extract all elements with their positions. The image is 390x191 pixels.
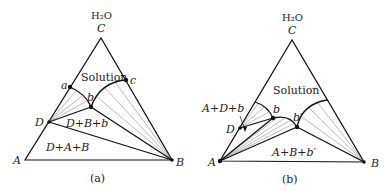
point-D [47, 120, 51, 124]
label-vertex-A-a: A [12, 154, 21, 167]
label-region-abb: A+B+b′ [271, 146, 317, 159]
label-point-bprime: b′ [293, 111, 303, 124]
label-region-dbb: D+B+b [65, 117, 108, 130]
label-vertex-B-a: B [175, 156, 184, 169]
caption-a: (a) [90, 172, 105, 185]
curve-bc [91, 80, 126, 107]
label-region-adb: A+D+b [201, 102, 244, 115]
label-point-c: c [130, 74, 136, 87]
arrow-head-icon [243, 127, 247, 132]
point-A-b [218, 159, 222, 163]
ternary-diagram-b: H₂O C A B D b b′ Solution A+D+b A+B+b′ (… [201, 12, 379, 186]
label-region-solution-b: Solution [273, 84, 319, 97]
point-b-b [271, 116, 275, 120]
point-b [89, 105, 93, 109]
label-h2o-a: H₂O [91, 10, 112, 21]
label-point-a: a [61, 79, 68, 92]
label-region-solution-a: Solution [81, 71, 127, 84]
point-B [170, 158, 174, 162]
point-a [68, 85, 72, 89]
label-vertex-C-a: C [97, 22, 106, 35]
label-vertex-C-b: C [288, 24, 297, 37]
caption-b: (b) [282, 173, 298, 186]
point-bprime [295, 125, 299, 129]
label-h2o-b: H₂O [282, 12, 303, 23]
point-B-b [362, 160, 366, 164]
label-point-b-a: b [87, 91, 94, 104]
label-point-D-b: D [225, 123, 235, 136]
label-vertex-A-b: A [207, 156, 216, 169]
label-point-b-b: b [273, 103, 280, 116]
phase-diagrams: H₂O C A B D a b c Solution D+B+b D+A+B (… [0, 0, 390, 191]
point-D-b [238, 126, 242, 130]
label-vertex-B-b: B [370, 157, 379, 170]
line-bB [91, 107, 172, 160]
ternary-diagram-a: H₂O C A B D a b c Solution D+B+b D+A+B (… [12, 10, 184, 185]
label-region-dab: D+A+B [45, 141, 89, 154]
label-point-D-a: D [34, 116, 44, 129]
